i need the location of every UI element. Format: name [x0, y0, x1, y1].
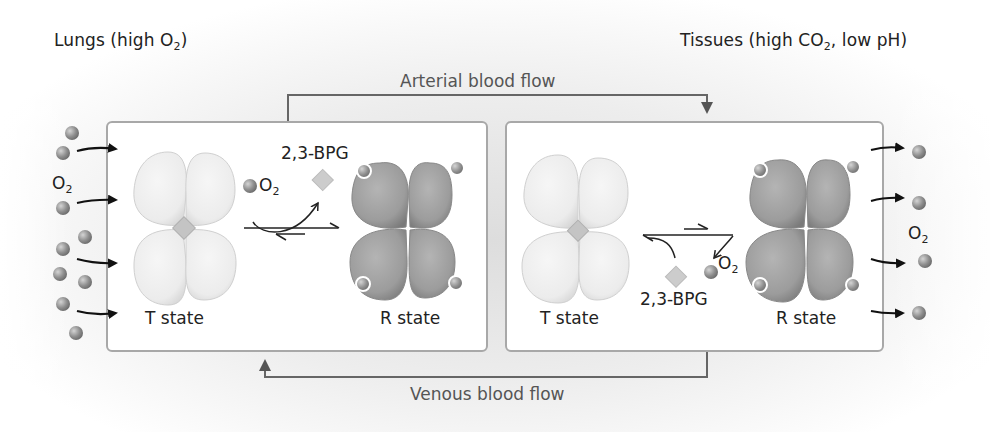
o2-released-right [704, 265, 718, 279]
bpg-released-left [312, 169, 333, 190]
o2-label-lungs: O2 [52, 173, 72, 193]
o2-reactant-label-right: O2 [718, 253, 738, 273]
reaction-arrows-left [244, 203, 339, 240]
arterial-flow-arrow [288, 95, 707, 121]
diagram-graphics [0, 0, 990, 432]
bpg-label-right: 2,3-BPG [640, 289, 708, 309]
r-state-label-left: R state [380, 308, 440, 328]
bpg-label-left: 2,3-BPG [281, 143, 349, 163]
o2-label-tissues: O2 [908, 223, 928, 243]
venous-flow-arrow [265, 352, 707, 377]
free-o2-molecules-left [53, 126, 92, 340]
o2-reactant-label-left: O2 [259, 175, 279, 195]
t-state-label-left: T state [145, 308, 204, 328]
o2-release-arrows [871, 147, 904, 313]
r-state-label-right: R state [776, 308, 836, 328]
o2-reactant-left [243, 179, 257, 193]
t-state-label-right: T state [540, 308, 599, 328]
bpg-released-right [665, 266, 686, 287]
